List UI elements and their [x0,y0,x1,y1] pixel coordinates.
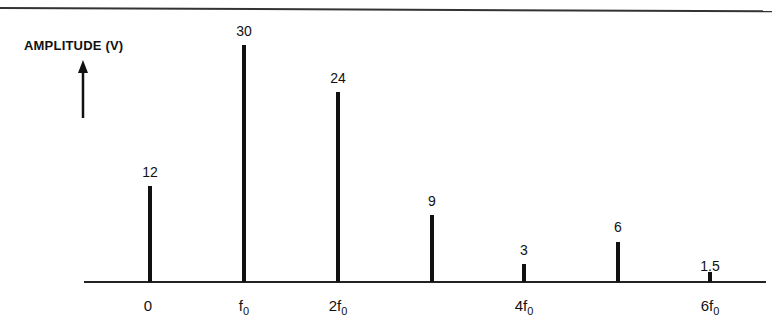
x-tick-2f0: 2f0 [313,297,363,317]
x-tick-2f0-sub: 0 [341,305,347,317]
x-tick-0-text: 0 [144,297,152,314]
spectral-line-f0 [242,45,246,282]
value-label-3f0: 9 [412,193,452,209]
value-label-5f0: 6 [598,219,638,235]
value-label-4f0: 3 [504,242,544,258]
spectral-line-4f0 [522,264,526,282]
spectral-line-3f0 [430,215,434,282]
top-rule [0,7,772,12]
spectral-line-5f0 [616,242,620,282]
x-tick-6f0-text: 6f [701,297,714,314]
value-label-2f0: 24 [318,70,358,86]
value-label-6f0: 1.5 [690,258,730,274]
x-axis-line [84,281,766,283]
spectral-line-0 [148,186,152,282]
value-label-f0: 30 [224,23,264,39]
x-tick-6f0-sub: 0 [713,305,719,317]
x-tick-f0-sub: 0 [243,305,249,317]
x-tick-4f0-text: 4f [515,297,528,314]
x-tick-0: 0 [123,297,173,314]
up-arrow-icon [76,60,90,118]
x-tick-f0: f0 [219,297,269,317]
x-tick-4f0: 4f0 [499,297,549,317]
x-tick-6f0: 6f0 [685,297,735,317]
spectral-line-2f0 [336,92,340,282]
x-tick-4f0-sub: 0 [527,305,533,317]
value-label-0: 12 [130,164,170,180]
y-axis-label: AMPLITUDE (V) [24,38,123,53]
x-tick-2f0-text: 2f [329,297,342,314]
